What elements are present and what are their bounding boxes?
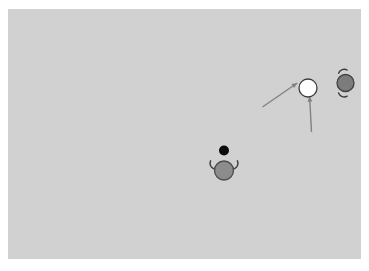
agent-right-gray-head — [337, 75, 354, 92]
agent-bottom-gray-head — [215, 161, 234, 180]
ball — [219, 146, 229, 156]
figure-root — [0, 0, 369, 271]
scene-svg — [0, 0, 369, 271]
agent-white-head — [299, 79, 317, 97]
stage-background — [8, 9, 361, 259]
